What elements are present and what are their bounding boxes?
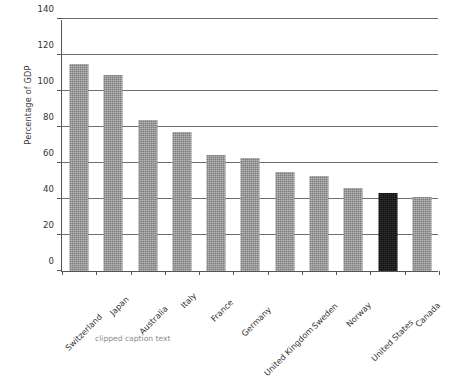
y-tick-label: 40 — [43, 184, 54, 194]
x-tick-label: Sweden — [310, 301, 340, 331]
x-tick-label: United Kingdom — [262, 324, 316, 378]
x-tick-mark — [405, 271, 406, 275]
bar — [378, 193, 397, 271]
x-tick-mark — [233, 271, 234, 275]
bar — [275, 172, 294, 271]
y-tick-label: 80 — [43, 112, 54, 122]
bar — [104, 75, 123, 271]
bar-slot — [131, 20, 165, 271]
y-tick-label: 20 — [43, 220, 54, 230]
bar-slot — [96, 20, 130, 271]
bar-slot — [405, 20, 439, 271]
y-tick-label: 100 — [38, 76, 54, 86]
bar — [207, 155, 226, 271]
bar — [310, 176, 329, 271]
bar-slot — [268, 20, 302, 271]
x-tick-mark — [302, 271, 303, 275]
x-tick-label-wrap: France — [228, 278, 254, 304]
bar-slot — [370, 20, 404, 271]
bar — [344, 188, 363, 271]
x-tick-mark — [439, 271, 440, 275]
y-tick-label: 120 — [38, 40, 54, 50]
x-tick-label-wrap: Norway — [366, 278, 395, 307]
x-tick-mark — [165, 271, 166, 275]
x-tick-mark — [199, 271, 200, 275]
y-tick-label: 60 — [43, 148, 54, 158]
figure-caption: clipped caption text — [95, 335, 445, 343]
bar — [138, 120, 157, 271]
x-tick-label-wrap: Germany — [266, 278, 300, 312]
bar — [70, 64, 89, 271]
x-tick-mark — [62, 271, 63, 275]
bar-slot — [302, 20, 336, 271]
x-tick-label: Germany — [239, 305, 273, 339]
bar-slot — [62, 20, 96, 271]
x-tick-label: Norway — [344, 300, 373, 329]
x-tick-label: Switzerland — [63, 312, 104, 353]
y-tick-label: 140 — [38, 4, 54, 14]
bar — [241, 158, 260, 271]
plot-area: 020406080100120140 SwitzerlandJapanAustr… — [61, 20, 438, 272]
x-tick-mark — [336, 271, 337, 275]
x-tick-mark — [131, 271, 132, 275]
bar-slot — [165, 20, 199, 271]
x-tick-label-wrap: Italy — [191, 278, 211, 298]
x-tick-mark — [96, 271, 97, 275]
y-tick-mark — [57, 18, 62, 19]
y-tick-label: 0 — [49, 256, 54, 266]
bar — [172, 132, 191, 271]
y-axis-title: Percentage of GDP — [23, 25, 33, 185]
bar-slot — [233, 20, 267, 271]
x-tick-mark — [370, 271, 371, 275]
x-tick-mark — [268, 271, 269, 275]
gridline — [62, 18, 438, 19]
x-tick-label: Australia — [137, 304, 170, 337]
figure-caption-text: clipped caption text — [95, 335, 445, 343]
x-tick-label: France — [209, 297, 235, 323]
bars-group — [62, 20, 438, 271]
bar-slot — [199, 20, 233, 271]
x-tick-label-wrap: Sweden — [333, 278, 363, 308]
bar-slot — [336, 20, 370, 271]
bar — [412, 197, 431, 271]
